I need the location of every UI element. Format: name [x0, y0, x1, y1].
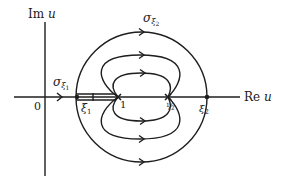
- sigma-xi1-label: σξ1: [53, 75, 69, 91]
- contour-diagram: Im u Re u 0 ξ1 1 ½ ξ2 σξ1 σξ2: [0, 0, 283, 181]
- inner-upper-loop: [113, 73, 170, 97]
- half-label: ½: [166, 102, 175, 112]
- imaginary-axis-label: Im u: [28, 7, 56, 21]
- origin-label: 0: [34, 100, 41, 113]
- one-label: 1: [120, 99, 126, 110]
- real-axis-label: Re u: [244, 90, 272, 104]
- point-xi2: [205, 95, 210, 100]
- sigma-xi2-label: σξ2: [143, 11, 160, 27]
- xi1-label: ξ1: [81, 102, 92, 116]
- xi2-label: ξ2: [199, 103, 209, 116]
- point-xi1: [75, 95, 79, 99]
